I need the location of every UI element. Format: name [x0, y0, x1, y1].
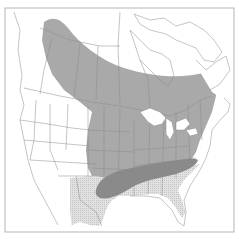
range-map-svg — [0, 0, 239, 240]
range-map — [0, 0, 239, 240]
